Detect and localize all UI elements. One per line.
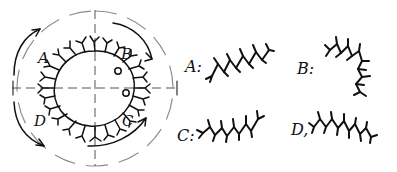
- legend-label-A: A:: [183, 57, 202, 76]
- quadrant-label-B: B: [120, 45, 132, 63]
- legend-chain-B: [325, 37, 370, 96]
- hand-drawn-figure: A B C D A: B:: [0, 0, 397, 172]
- quadrant-label-D: D: [33, 112, 46, 130]
- quadrant-label-C: C: [122, 112, 134, 130]
- legend-item-D: D,: [290, 112, 377, 143]
- receptor-mark-upper: [115, 68, 121, 74]
- legend-chain-A: [206, 44, 274, 82]
- sketch-canvas: A B C D A: B:: [0, 0, 397, 172]
- receptor-mark-lower: [123, 90, 129, 96]
- legend-item-B: B:: [296, 37, 370, 96]
- legend-label-B: B:: [296, 59, 314, 78]
- legend-chain-D: [309, 112, 377, 143]
- arrow-quadrant-A: [14, 29, 40, 75]
- quadrant-label-A: A: [36, 49, 49, 67]
- legend-chain-C: [197, 111, 264, 142]
- legend-label-D: D,: [290, 120, 308, 139]
- legend-label-C: C:: [177, 126, 195, 145]
- legend-item-C: C:: [177, 111, 264, 145]
- legend-item-A: A:: [183, 44, 274, 82]
